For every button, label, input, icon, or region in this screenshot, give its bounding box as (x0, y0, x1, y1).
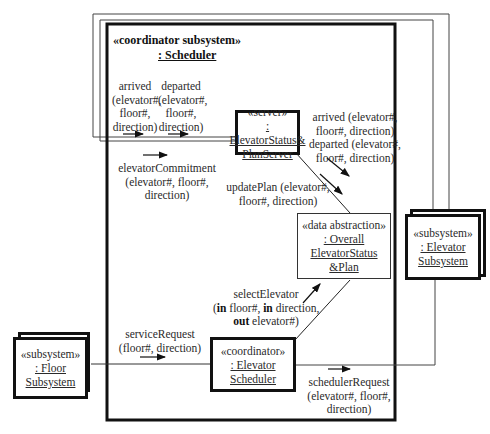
object-name: : Elevator (230, 358, 275, 372)
message-elevator-commitment: elevatorCommitment(elevator#, floor#, di… (112, 162, 222, 203)
object-stereotype: «subsystem» (413, 226, 472, 240)
message-service-request: serviceRequest(floor#, direction) (116, 328, 204, 355)
object-name: Subsystem (26, 375, 76, 389)
object-name: : Overall (324, 232, 365, 246)
object-name: : Floor (35, 361, 66, 375)
message-departed-left: departed(elevator#, floor#,direction) (158, 80, 204, 134)
object-name: : ElevatorStatus& (230, 119, 306, 147)
message-arrived-departed-right: arrived (elevator#,floor#, direction) de… (308, 111, 402, 165)
elevator-scheduler-object[interactable]: «coordinator» : Elevator Scheduler (210, 337, 296, 392)
object-stereotype: «server» (248, 105, 288, 119)
message-select-elevator: selectElevator (in floor#, in direction,… (213, 288, 319, 329)
object-name: ElevatorStatus (310, 246, 377, 260)
object-name: PlanServer (242, 147, 292, 161)
object-stereotype: «subsystem» (21, 347, 80, 361)
message-update-plan: updatePlan (elevator#,floor#, direction) (226, 181, 330, 208)
elevator-subsystem-object[interactable]: «subsystem» : Elevator Subsystem (405, 214, 481, 280)
object-stereotype: «coordinator» (221, 344, 286, 358)
scheduler-name: : Scheduler (113, 48, 241, 63)
object-name: Scheduler (230, 372, 276, 386)
message-scheduler-request: schedulerRequest(elevator#, floor#, dire… (300, 376, 398, 417)
scheduler-subsystem-title: «coordinator subsystem» : Scheduler (113, 33, 241, 63)
floor-subsystem-object[interactable]: «subsystem» : Floor Subsystem (13, 337, 88, 399)
object-name: &Plan (329, 260, 358, 274)
object-name: : Elevator (420, 240, 465, 254)
overall-elevator-status-plan-object[interactable]: «data abstraction» : Overall ElevatorSta… (297, 213, 391, 279)
message-arrived-left: arrived(elevator#, floor#,direction) (112, 80, 158, 134)
scheduler-stereotype: «coordinator subsystem» (113, 33, 241, 47)
elevator-status-plan-server-object[interactable]: «server» : ElevatorStatus& PlanServer (235, 110, 300, 155)
object-name: Subsystem (418, 254, 468, 268)
object-stereotype: «data abstraction» (302, 218, 386, 232)
